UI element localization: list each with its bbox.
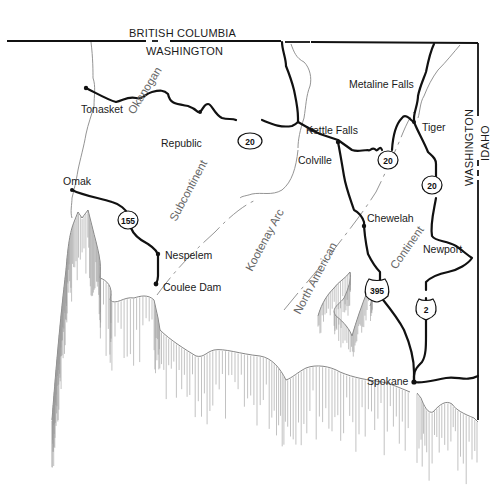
us-route-395-shield: 395 <box>365 279 389 302</box>
city-label-omak: Omak <box>63 175 92 187</box>
label-washington-east: WASHINGTON <box>463 109 475 186</box>
city-label-newport: Newport <box>423 243 462 255</box>
label-kootenay-arc: Kootenay Arc <box>243 207 286 273</box>
label-north-american: North American <box>291 240 339 316</box>
city-label-spokane: Spokane <box>367 375 409 387</box>
city-label-tiger: Tiger <box>422 121 446 133</box>
label-washington-north: WASHINGTON <box>146 45 223 57</box>
svg-text:155: 155 <box>121 216 135 226</box>
route-395 <box>338 142 380 280</box>
label-continent: Continent <box>388 223 427 271</box>
svg-text:20: 20 <box>383 156 393 166</box>
city-dot-nespelem <box>156 252 160 256</box>
city-label-tonasket: Tonasket <box>81 103 123 115</box>
plateau-escarpment <box>52 210 410 420</box>
geologic-labels: Okanogan Subcontinent Kootenay Arc North… <box>126 65 427 316</box>
city-label-metaline-falls: Metaline Falls <box>349 78 414 90</box>
us-route-2-shield: 2 <box>416 299 436 320</box>
rivers <box>71 42 460 218</box>
route-20-central <box>262 120 298 127</box>
city-label-republic: Republic <box>161 137 202 149</box>
state-route-20-shield-east: 20 <box>422 176 442 194</box>
city-dot-republic <box>198 110 202 114</box>
svg-text:20: 20 <box>245 137 255 147</box>
geologic-map: 20 20 20 155 395 2 BRITISH COLUMBIA WASH… <box>0 0 494 490</box>
city-dot-chewelah <box>362 224 366 228</box>
route-155-south <box>131 228 158 284</box>
columbia-river-south <box>240 150 298 198</box>
city-dot-coulee-dam <box>154 282 159 287</box>
svg-text:395: 395 <box>370 286 384 296</box>
route-155 <box>72 190 128 214</box>
state-route-20-shield-central: 20 <box>378 151 398 169</box>
city-dot-tonasket <box>84 86 88 90</box>
city-label-chewelah: Chewelah <box>367 212 414 224</box>
city-label-nespelem: Nespelem <box>165 249 213 261</box>
route-31-metaline <box>414 44 434 122</box>
route-395-south <box>380 296 414 380</box>
city-dot-omak <box>70 188 74 192</box>
route-spokane-east <box>414 376 478 383</box>
label-british-columbia: BRITISH COLUMBIA <box>129 27 237 39</box>
state-route-20-shield-west: 20 <box>238 133 262 149</box>
svg-text:2: 2 <box>424 305 429 315</box>
state-route-155-shield: 155 <box>118 211 138 229</box>
label-idaho: IDAHO <box>479 125 491 161</box>
city-dot-spokane <box>411 379 416 384</box>
route-2 <box>414 316 426 382</box>
pend-oreille-river <box>418 45 460 118</box>
city-label-kettle-falls: Kettle Falls <box>306 124 358 136</box>
city-label-coulee-dam: Coulee Dam <box>163 281 222 293</box>
city-dot-colville <box>336 140 340 144</box>
city-label-colville: Colville <box>298 154 332 166</box>
international-border <box>7 41 478 43</box>
label-subcontinent: Subcontinent <box>167 157 209 223</box>
city-dot-tiger <box>412 120 416 124</box>
svg-text:20: 20 <box>427 181 437 191</box>
